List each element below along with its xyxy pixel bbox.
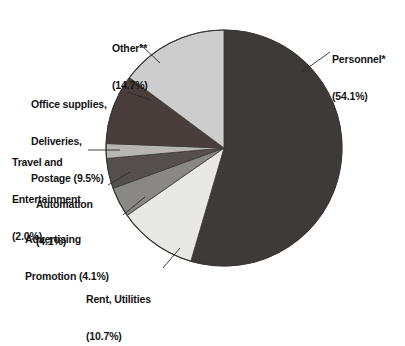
slice-label-other-line2: (14.7%) — [112, 79, 148, 91]
slice-label-advertising-promotion-line1: Advertising — [25, 233, 109, 245]
slice-label-other: Other** (14.7%) — [112, 17, 148, 116]
leader-line-personnel — [302, 52, 330, 72]
slice-label-personnel-line2: (54.1%) — [332, 90, 385, 102]
slice-label-rent-utilities-line1: Rent, Utilities — [86, 293, 151, 305]
slice-label-personnel: Personnel* (54.1%) — [332, 28, 385, 127]
slice-label-travel-entertainment-line1: Travel and — [12, 156, 81, 168]
slice-label-rent-utilities-line2: (10.7%) — [86, 330, 151, 342]
slice-label-rent-utilities: Rent, Utilities (10.7%) — [86, 268, 151, 346]
slice-label-office-supplies-line1: Office supplies, — [31, 98, 107, 110]
slice-label-other-line1: Other** — [112, 42, 148, 54]
slice-label-personnel-line1: Personnel* — [332, 53, 385, 65]
